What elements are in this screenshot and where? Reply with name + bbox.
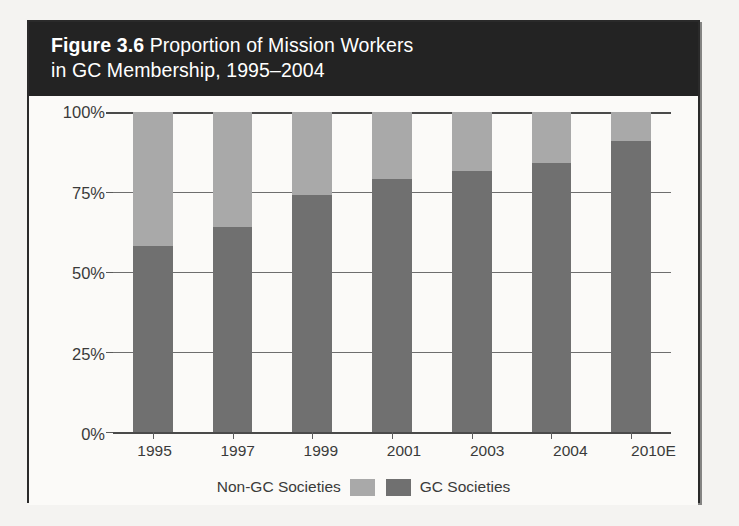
x-tickmark [392, 432, 393, 439]
x-tick-label: 1999 [304, 442, 338, 460]
legend-label: Non-GC Societies [217, 478, 341, 496]
y-tickmark [106, 352, 113, 353]
plot-wrapper: 0%25%50%75%100% [59, 112, 671, 434]
y-tickmark [106, 112, 113, 114]
x-tickmark [472, 432, 473, 439]
y-tickmark [106, 272, 113, 273]
x-tick-label: 1997 [220, 442, 254, 460]
figure-title-banner: Figure 3.6 Proportion of Mission Workers… [29, 22, 698, 96]
chart-body: 0%25%50%75%100% 199519971999200120032004… [29, 96, 698, 505]
x-tickmark [631, 432, 632, 439]
bar-segment-gc-societies[interactable] [452, 171, 492, 432]
x-tick-label: 2001 [387, 442, 421, 460]
bar-segment-non-gc-societies[interactable] [372, 112, 412, 179]
y-tickmark [106, 192, 113, 193]
bar-segment-non-gc-societies[interactable] [532, 112, 572, 163]
bar-segment-gc-societies[interactable] [213, 227, 253, 432]
y-tick-label: 75% [72, 183, 105, 202]
chart-legend: Non-GC SocietiesGC Societies [29, 478, 698, 496]
legend-swatch [350, 479, 375, 496]
x-axis: 1995199719992001200320042010E [113, 442, 695, 468]
bar-column[interactable] [213, 112, 253, 432]
legend-item[interactable]: Non-GC Societies [217, 478, 375, 496]
y-tick-label: 0% [81, 425, 105, 444]
bar-segment-non-gc-societies[interactable] [452, 112, 492, 171]
x-tickmark [551, 432, 552, 439]
bar-segment-gc-societies[interactable] [611, 141, 651, 432]
y-tick-label: 25% [72, 344, 105, 363]
bar-column[interactable] [611, 112, 651, 432]
bar-column[interactable] [133, 112, 173, 432]
bar-segment-non-gc-societies[interactable] [292, 112, 332, 195]
figure-number: Figure 3.6 [51, 34, 144, 56]
bar-segment-gc-societies[interactable] [292, 195, 332, 432]
figure-title-text: Proportion of Mission Workers [144, 34, 413, 56]
bars-layer [113, 112, 671, 432]
y-tick-label: 100% [63, 103, 105, 122]
bar-column[interactable] [372, 112, 412, 432]
y-tickmark [106, 432, 113, 433]
y-tick-label: 50% [72, 264, 105, 283]
bar-column[interactable] [292, 112, 332, 432]
plot-area [113, 112, 671, 434]
bar-segment-gc-societies[interactable] [133, 246, 173, 432]
x-tick-label: 2010E [631, 442, 676, 460]
bar-segment-non-gc-societies[interactable] [133, 112, 173, 246]
bar-column[interactable] [452, 112, 492, 432]
figure-frame: Figure 3.6 Proportion of Mission Workers… [27, 20, 700, 503]
legend-label: GC Societies [420, 478, 510, 496]
bar-segment-gc-societies[interactable] [372, 179, 412, 432]
x-tickmark [153, 432, 154, 439]
bar-segment-non-gc-societies[interactable] [611, 112, 651, 141]
figure-title-line-2: in GC Membership, 1995–2004 [51, 58, 676, 83]
x-tick-label: 2003 [470, 442, 504, 460]
x-tickmark [312, 432, 313, 439]
x-tick-label: 1995 [137, 442, 171, 460]
x-tickmark [233, 432, 234, 439]
y-axis: 0%25%50%75%100% [59, 112, 113, 434]
legend-item[interactable]: GC Societies [386, 478, 510, 496]
bar-column[interactable] [532, 112, 572, 432]
legend-swatch [386, 479, 411, 496]
bar-segment-non-gc-societies[interactable] [213, 112, 253, 227]
x-tick-label: 2004 [553, 442, 587, 460]
figure-page: Figure 3.6 Proportion of Mission Workers… [0, 0, 739, 526]
bar-segment-gc-societies[interactable] [532, 163, 572, 432]
figure-title-line-1: Figure 3.6 Proportion of Mission Workers [51, 33, 676, 58]
